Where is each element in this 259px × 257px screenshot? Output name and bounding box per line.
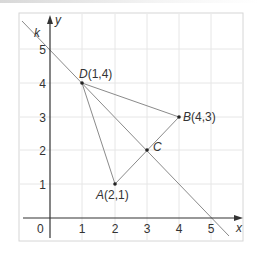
y-tick: 5: [39, 43, 46, 57]
y-tick: 1: [39, 178, 46, 192]
x-tick: 3: [144, 222, 151, 236]
diagram-frame: [19, 13, 243, 241]
x-tick: 4: [176, 222, 183, 236]
point-a-label: A(2,1): [95, 188, 129, 202]
line-k-label: k: [34, 26, 41, 40]
x-tick: 2: [112, 222, 119, 236]
point-b-label: B(4,3): [183, 110, 216, 124]
point-a: [113, 182, 117, 186]
x-axis-label: x: [235, 221, 243, 235]
x-tick: 1: [79, 222, 86, 236]
point-d: [80, 81, 84, 85]
y-tick: 4: [39, 77, 46, 91]
point-c: [145, 148, 149, 152]
point-c-label: C: [153, 140, 162, 154]
point-d-label: D(1,4): [79, 67, 112, 81]
y-tick: 2: [39, 144, 46, 158]
coordinate-diagram: x y k 0 1 2 3 4 5 1 2 3 4 5 A(2,1) B(4,3…: [0, 0, 259, 257]
point-b: [177, 115, 181, 119]
y-tick: 3: [39, 111, 46, 125]
y-axis-label: y: [54, 13, 62, 27]
x-tick: 5: [208, 222, 215, 236]
origin-label: 0: [37, 222, 44, 236]
